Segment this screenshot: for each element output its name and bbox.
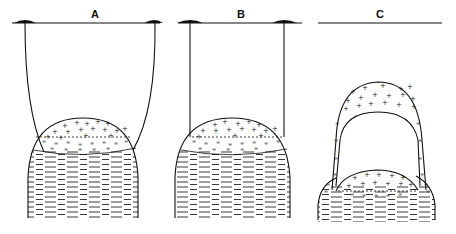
svg-text:+: + (408, 181, 414, 189)
svg-text:=: = (254, 145, 258, 151)
svg-text:=: = (226, 146, 230, 152)
svg-text:=: = (240, 146, 244, 152)
svg-text:+: + (222, 118, 228, 126)
svg-text:+: + (380, 82, 386, 90)
svg-text:+: + (346, 182, 352, 190)
svg-text:+: + (83, 132, 89, 140)
cross-pattern-c-cap: +++++ ++++++ ++++++ (343, 82, 417, 113)
svg-text:=: = (418, 137, 422, 143)
double-dash-pattern-b: ======== ===== (192, 138, 280, 152)
svg-text:+: + (196, 133, 202, 141)
svg-text:=: = (192, 138, 196, 144)
svg-text:=: = (333, 171, 337, 177)
svg-text:=: = (334, 137, 338, 143)
svg-text:=: = (204, 140, 208, 146)
svg-text:+: + (58, 134, 64, 142)
svg-text:=: = (64, 146, 68, 152)
svg-text:=: = (198, 145, 202, 151)
svg-text:=: = (212, 146, 216, 152)
svg-text:+: + (272, 125, 278, 133)
svg-text:=: = (386, 192, 390, 198)
svg-text:=: = (92, 146, 96, 152)
double-dash-pattern-a: ======== ===== (42, 138, 128, 152)
svg-text:+: + (376, 171, 382, 179)
anchor-icon-b-left (177, 20, 203, 23)
svg-text:=: = (398, 191, 402, 197)
string-a-left (25, 23, 44, 152)
svg-text:+: + (400, 91, 406, 99)
svg-text:+: + (90, 125, 96, 133)
svg-text:=: = (54, 140, 58, 146)
panel-c: +++++ ++++++ ++++++ ==== ==== +++++ ++++… (315, 23, 442, 225)
svg-text:=: = (424, 181, 428, 187)
svg-text:+: + (385, 180, 391, 188)
svg-text:=: = (334, 155, 338, 161)
panel-b: +++++ +++++++ +++ ======== ===== (170, 20, 302, 220)
svg-text:+: + (258, 132, 264, 140)
svg-text:+: + (362, 84, 368, 92)
svg-text:=: = (216, 139, 220, 145)
svg-text:=: = (66, 139, 70, 145)
svg-text:+: + (345, 97, 351, 105)
svg-text:+: + (263, 127, 269, 135)
svg-text:+: + (114, 127, 120, 135)
svg-text:+: + (213, 127, 219, 135)
svg-text:+: + (382, 99, 388, 107)
svg-text:+: + (246, 118, 252, 126)
wall-pattern-c: ==== ==== (333, 120, 424, 177)
svg-text:+: + (108, 132, 114, 140)
svg-text:+: + (251, 126, 257, 134)
svg-text:+: + (358, 94, 364, 102)
svg-text:+: + (389, 172, 395, 180)
svg-text:+: + (407, 83, 413, 91)
svg-text:=: = (50, 145, 54, 151)
svg-text:+: + (368, 100, 374, 108)
svg-text:=: = (362, 192, 366, 198)
svg-text:+: + (65, 128, 71, 136)
svg-text:+: + (396, 101, 402, 109)
svg-text:+: + (239, 125, 245, 133)
svg-text:=: = (335, 120, 339, 126)
svg-text:+: + (398, 180, 404, 188)
svg-text:=: = (106, 145, 110, 151)
svg-text:+: + (372, 179, 378, 187)
svg-text:+: + (410, 95, 416, 103)
svg-text:+: + (372, 91, 378, 99)
cross-pattern-a: +++++ +++++++ ++++ (45, 118, 128, 142)
diagram-svg: +++++ +++++++ ++++ ======== ===== +++ (0, 0, 456, 234)
svg-text:=: = (78, 146, 82, 152)
svg-text:=: = (264, 140, 268, 146)
svg-text:=: = (416, 120, 420, 126)
anchor-icon-a-right (144, 20, 163, 23)
svg-text:=: = (42, 138, 46, 144)
svg-text:=: = (114, 140, 118, 146)
svg-text:+: + (343, 105, 349, 113)
svg-text:+: + (232, 132, 238, 140)
string-a-right (133, 23, 155, 150)
anchor-icon-a-left (14, 20, 36, 23)
svg-text:=: = (420, 171, 424, 177)
svg-text:=: = (374, 192, 378, 198)
svg-text:+: + (411, 103, 417, 111)
svg-text:+: + (350, 88, 356, 96)
anchor-icon-b-right (272, 20, 297, 23)
svg-text:=: = (350, 191, 354, 197)
diagram-canvas: A B C +++++ ++++ (0, 0, 456, 234)
svg-text:+: + (352, 174, 358, 182)
svg-text:+: + (95, 118, 101, 126)
svg-text:+: + (356, 102, 362, 110)
svg-text:=: = (276, 138, 280, 144)
svg-text:+: + (256, 121, 262, 129)
svg-text:+: + (360, 180, 366, 188)
svg-text:=: = (324, 188, 328, 194)
svg-text:=: = (326, 181, 330, 187)
svg-text:+: + (364, 171, 370, 179)
svg-text:=: = (426, 188, 430, 194)
svg-text:=: = (418, 155, 422, 161)
panel-a: +++++ +++++++ ++++ ======== ===== (12, 20, 163, 220)
svg-text:+: + (122, 125, 128, 133)
svg-text:=: = (124, 138, 128, 144)
